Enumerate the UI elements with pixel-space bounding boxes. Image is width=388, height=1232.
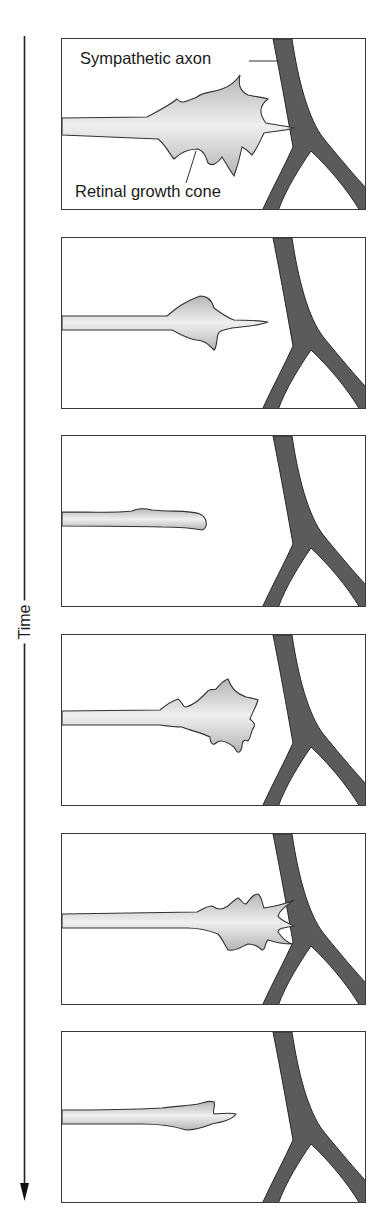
cone-leader-line — [186, 151, 196, 183]
growth-cone-shape — [62, 679, 258, 752]
neuron-illustration — [62, 436, 366, 607]
panel-5 — [61, 833, 366, 1005]
sympathetic-axon-label: Sympathetic axon — [80, 49, 211, 68]
growth-cone-shape — [62, 296, 268, 350]
panel-1: Sympathetic axon Retinal growth cone — [61, 38, 366, 210]
sympathetic-axon-shape — [262, 238, 366, 409]
neuron-illustration — [62, 238, 366, 409]
growth-cone-shape — [62, 894, 294, 950]
growth-cone-shape — [62, 1101, 236, 1130]
time-axis: Time — [0, 0, 50, 1232]
panel-4 — [61, 634, 366, 806]
neuron-illustration — [62, 834, 366, 1005]
panel-3 — [61, 435, 366, 607]
panel-6 — [61, 1031, 366, 1203]
neuron-illustration — [62, 1032, 366, 1203]
time-label: Time — [16, 601, 34, 644]
growth-cone-shape — [62, 509, 206, 530]
sympathetic-axon-shape — [262, 1032, 366, 1203]
panel-2 — [61, 237, 366, 409]
sympathetic-axon-shape — [262, 436, 366, 607]
neuron-illustration — [62, 635, 366, 806]
sympathetic-axon-shape — [262, 635, 366, 806]
retinal-growth-cone-label: Retinal growth cone — [75, 182, 221, 201]
growth-cone-shape — [62, 75, 294, 176]
